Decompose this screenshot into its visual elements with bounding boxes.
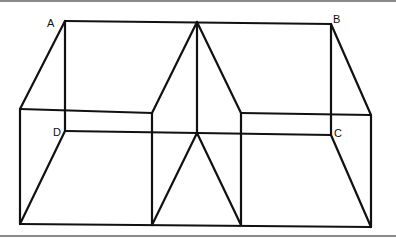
edge-center-left-slant-bottom <box>152 133 197 225</box>
edge-center-right-slant-top <box>197 22 241 113</box>
edge-front-right-top <box>241 113 371 115</box>
label-d: D <box>53 126 61 138</box>
edge-center-right-slant-bottom <box>197 133 241 225</box>
diagram: A B C D <box>0 0 396 239</box>
edge-center-left-slant-top <box>152 22 197 113</box>
edge-left-slant-bottom <box>20 131 65 224</box>
label-a: A <box>47 17 55 29</box>
label-b: B <box>333 13 340 25</box>
edge-front-left-top <box>20 109 152 113</box>
label-c: C <box>334 127 342 139</box>
edge-right-slant-bottom <box>331 135 371 227</box>
edge-left-slant-top <box>20 21 65 109</box>
edge-right-slant-top <box>331 24 371 115</box>
edge-front-bottom <box>20 224 371 227</box>
